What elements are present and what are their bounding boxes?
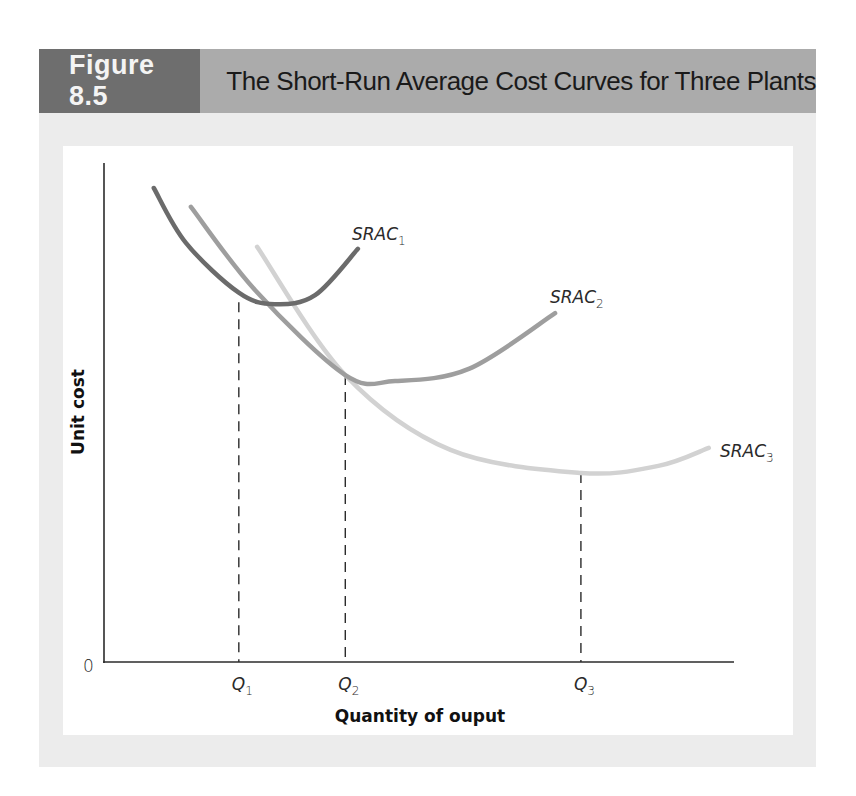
q1-tick-label: Q1: [232, 674, 253, 698]
x-axis-title: Quantity of ouput: [335, 706, 505, 726]
chart-svg: 0 Unit cost Quantity of ouput SRAC1SRAC2…: [0, 0, 856, 796]
q2-tick-label: Q2: [338, 674, 359, 698]
srac2-label: SRAC2: [550, 287, 604, 311]
srac1-label: SRAC1: [352, 224, 406, 248]
origin-label: 0: [83, 656, 94, 676]
y-axis-title: Unit cost: [68, 369, 88, 455]
q3-tick-label: Q3: [574, 674, 595, 698]
srac3-label: SRAC3: [720, 441, 774, 465]
